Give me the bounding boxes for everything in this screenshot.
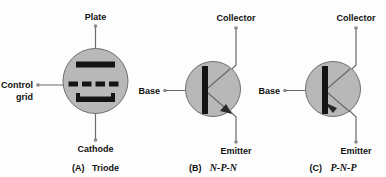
npn-caption-name: N-P-N [209, 162, 238, 173]
electronics-symbols-figure: Plate Control grid Cathode (A) Triode [0, 0, 386, 177]
triode-cathode-label: Cathode [78, 144, 114, 154]
pnp-base-electrode [322, 66, 328, 114]
panel-pnp: Collector Base Emitter (C) P-N-P [258, 13, 376, 174]
triode-caption: (A) Triode [72, 157, 119, 174]
npn-caption-prefix: (B) [189, 163, 202, 173]
npn-caption: (B) N-P-N [189, 157, 238, 174]
panel-triode: Plate Control grid Cathode (A) Triode [1, 12, 128, 174]
npn-collector-label: Collector [216, 13, 256, 23]
npn-base-label: Base [138, 86, 160, 96]
pnp-collector-label: Collector [336, 13, 376, 23]
npn-envelope [186, 62, 241, 117]
triode-plate-label: Plate [85, 12, 107, 22]
npn-emitter-label: Emitter [220, 146, 252, 156]
pnp-caption-prefix: (C) [309, 163, 322, 173]
pnp-emitter-label: Emitter [340, 146, 372, 156]
triode-caption-name: Triode [92, 163, 119, 173]
triode-control-grid-label-line2: grid [16, 92, 33, 102]
pnp-base-label: Base [258, 86, 280, 96]
panel-npn: Collector Base Emitter (B) N-P-N [138, 13, 256, 174]
triode-plate-electrode [76, 62, 115, 68]
npn-base-electrode [202, 66, 208, 114]
triode-envelope [63, 49, 128, 114]
triode-control-grid-label-line1: Control [1, 80, 33, 90]
figure-root: Plate Control grid Cathode (A) Triode [0, 0, 386, 177]
pnp-caption-name: P-N-P [330, 162, 357, 173]
pnp-caption: (C) P-N-P [309, 157, 357, 174]
triode-caption-prefix: (A) [72, 163, 85, 173]
